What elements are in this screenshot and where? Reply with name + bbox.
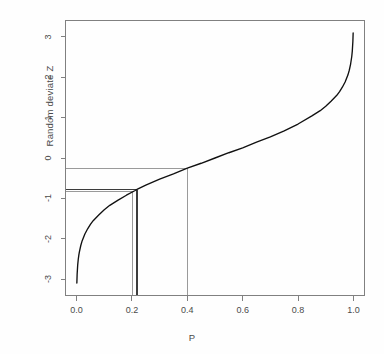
y-tick-label-1: -2 <box>42 226 54 252</box>
x-tick-label-1: 0.2 <box>126 305 139 315</box>
y-tick-label-5: 2 <box>42 64 54 90</box>
x-tick-label-0: 0.0 <box>70 305 83 315</box>
data-curve-qnorm <box>77 33 353 283</box>
y-tick-label-4: 1 <box>42 105 54 131</box>
x-tick-label-5: 1.0 <box>347 305 360 315</box>
y-axis-title-wrapper: Random deviate Z <box>8 100 22 260</box>
y-tick-label-0: -3 <box>42 266 54 292</box>
figure-canvas: Random deviate Z P 0.00.20.40.60.81.0 -3… <box>0 0 384 354</box>
x-tick-label-4: 0.8 <box>292 305 305 315</box>
plot-area <box>0 0 384 354</box>
y-tick-label-6: 3 <box>42 24 54 50</box>
x-tick-label-2: 0.4 <box>181 305 194 315</box>
y-tick-label-3: 0 <box>42 145 54 171</box>
x-tick-label-3: 0.6 <box>236 305 249 315</box>
x-axis-title: P <box>0 332 384 343</box>
y-tick-label-2: -1 <box>42 185 54 211</box>
